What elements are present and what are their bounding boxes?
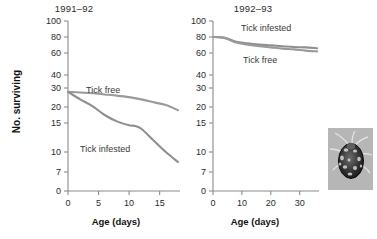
series-label-tick-infested: Tick infested: [241, 23, 291, 33]
x-tick-label: 30: [295, 198, 305, 208]
y-tick-label: 60: [196, 48, 206, 58]
y-tick-label: 80: [196, 32, 206, 42]
y-tick-label: 80: [51, 32, 61, 42]
plot-area-right: 10080604030201510700102030Tick infestedT…: [185, 0, 335, 239]
survival-figure: 1991–92 1008060403020151070051015Tick fr…: [0, 0, 377, 239]
tick-photo-graphic: [328, 128, 373, 190]
x-tick-label: 0: [210, 198, 215, 208]
y-tick-label: 10: [196, 147, 206, 157]
x-tick-label: 10: [124, 198, 134, 208]
x-axis-label-left: Age (days): [56, 216, 176, 227]
y-tick-label: 7: [201, 167, 206, 177]
y-tick-label: 20: [51, 102, 61, 112]
panel-1992-93: 1992–93 10080604030201510700102030Tick i…: [185, 0, 335, 239]
y-tick-label: 7: [56, 167, 61, 177]
y-tick-label: 100: [191, 16, 206, 26]
series-label-tick-free: Tick free: [86, 85, 120, 95]
y-tick-label: 40: [51, 70, 61, 80]
y-tick-label: 10: [51, 147, 61, 157]
y-tick-label: 15: [196, 118, 206, 128]
y-tick-label: 0: [56, 186, 61, 196]
y-tick-label: 100: [46, 16, 61, 26]
x-tick-label: 15: [155, 198, 165, 208]
y-tick-label: 20: [196, 102, 206, 112]
tick-photograph: [328, 128, 373, 190]
y-tick-label: 40: [196, 70, 206, 80]
y-tick-label: 30: [196, 83, 206, 93]
y-tick-label: 60: [51, 48, 61, 58]
series-label-tick-free: Tick free: [243, 55, 277, 65]
panel-1991-92: 1991–92 1008060403020151070051015Tick fr…: [0, 0, 190, 239]
x-axis-label-right: Age (days): [195, 216, 315, 227]
series-label-tick-infested: Tick infested: [80, 144, 130, 154]
x-tick-label: 5: [96, 198, 101, 208]
x-tick-label: 20: [266, 198, 276, 208]
y-tick-label: 0: [201, 186, 206, 196]
y-axis-label: No. surviving: [11, 50, 22, 154]
y-tick-label: 15: [51, 118, 61, 128]
y-tick-label: 30: [51, 83, 61, 93]
x-tick-label: 10: [237, 198, 247, 208]
plot-area-left: 1008060403020151070051015Tick freeTick i…: [0, 0, 190, 239]
x-tick-label: 0: [65, 198, 70, 208]
